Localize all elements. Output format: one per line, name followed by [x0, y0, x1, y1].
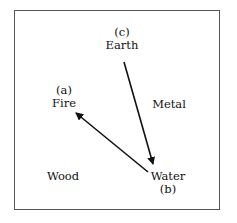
- arrow-water-to-fire: [76, 113, 148, 172]
- arrows-layer: [0, 0, 237, 223]
- arrow-earth-to-water: [124, 62, 153, 164]
